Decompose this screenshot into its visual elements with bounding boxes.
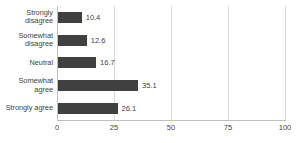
category-label: Strongly agree xyxy=(0,104,53,112)
bar-row: Somewhat disagree12.6 xyxy=(0,29,302,52)
x-tick-label: 25 xyxy=(99,123,129,132)
bar-container: 12.6 xyxy=(58,29,105,52)
bar xyxy=(58,35,87,46)
bar-row: Strongly disagree10.4 xyxy=(0,6,302,29)
bar-container: 35.1 xyxy=(58,74,157,97)
horizontal-bar-chart: Strongly disagree10.4Somewhat disagree12… xyxy=(0,0,302,143)
x-tick-label: 75 xyxy=(213,123,243,132)
category-label: Neutral xyxy=(0,59,53,67)
bar xyxy=(58,12,82,23)
category-label: Somewhat agree xyxy=(0,77,53,94)
bar-row: Somewhat agree35.1 xyxy=(0,74,302,97)
bar-value-label: 12.6 xyxy=(91,36,106,45)
x-axis-line xyxy=(57,120,286,121)
x-tick-label: 100 xyxy=(270,123,300,132)
category-label: Somewhat disagree xyxy=(0,32,53,49)
bar-row: Neutral16.7 xyxy=(0,52,302,75)
bar-rows: Strongly disagree10.4Somewhat disagree12… xyxy=(0,6,302,120)
x-tick-label: 0 xyxy=(42,123,72,132)
bar xyxy=(58,80,138,91)
bar-value-label: 16.7 xyxy=(100,58,115,67)
bar-value-label: 10.4 xyxy=(86,13,101,22)
bar-container: 26.1 xyxy=(58,97,136,120)
category-label: Strongly disagree xyxy=(0,9,53,26)
x-axis-tick-labels: 0255075100 xyxy=(0,123,302,139)
x-tick-label: 50 xyxy=(156,123,186,132)
bar-value-label: 35.1 xyxy=(142,81,157,90)
bar xyxy=(58,57,96,68)
bar xyxy=(58,103,118,114)
bar-container: 10.4 xyxy=(58,6,100,29)
bar-value-label: 26.1 xyxy=(122,104,137,113)
bar-container: 16.7 xyxy=(58,52,115,75)
bar-row: Strongly agree26.1 xyxy=(0,97,302,120)
